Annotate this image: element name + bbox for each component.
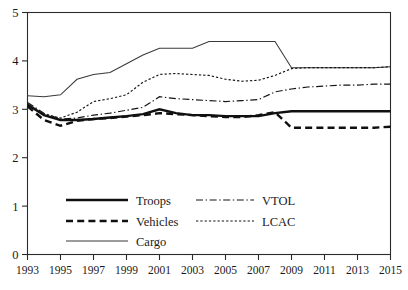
y-tick-label: 4 bbox=[12, 54, 19, 68]
x-tick-label: 2015 bbox=[379, 264, 402, 276]
y-tick-label: 2 bbox=[12, 151, 18, 165]
x-tick-label: 2001 bbox=[148, 264, 171, 276]
chart-container: 012345 199319951997199920012003200520072… bbox=[0, 0, 408, 290]
line-chart: 012345 199319951997199920012003200520072… bbox=[0, 0, 408, 290]
legend-label-lcac: LCAC bbox=[262, 215, 295, 229]
x-tick-label: 1995 bbox=[49, 264, 72, 276]
y-tick-label: 5 bbox=[12, 6, 18, 20]
legend-label-vehicles: Vehicles bbox=[136, 215, 178, 229]
x-tick-label: 2007 bbox=[247, 264, 270, 276]
x-tick-label: 2009 bbox=[280, 264, 303, 276]
x-tick-label: 1997 bbox=[82, 264, 105, 276]
legend-label-cargo: Cargo bbox=[136, 235, 166, 249]
x-tick-label: 2013 bbox=[346, 264, 369, 276]
y-tick-label: 0 bbox=[12, 248, 18, 262]
x-tick-label: 2003 bbox=[181, 264, 204, 276]
x-tick-label: 2011 bbox=[313, 264, 336, 276]
legend-label-troops: Troops bbox=[136, 194, 171, 208]
y-tick-label: 1 bbox=[12, 200, 18, 214]
x-tick-label: 1993 bbox=[16, 264, 39, 276]
y-tick-label: 3 bbox=[12, 103, 18, 117]
legend-label-vtol: VTOL bbox=[262, 194, 295, 208]
x-tick-label: 1999 bbox=[115, 264, 138, 276]
x-tick-label: 2005 bbox=[214, 264, 237, 276]
